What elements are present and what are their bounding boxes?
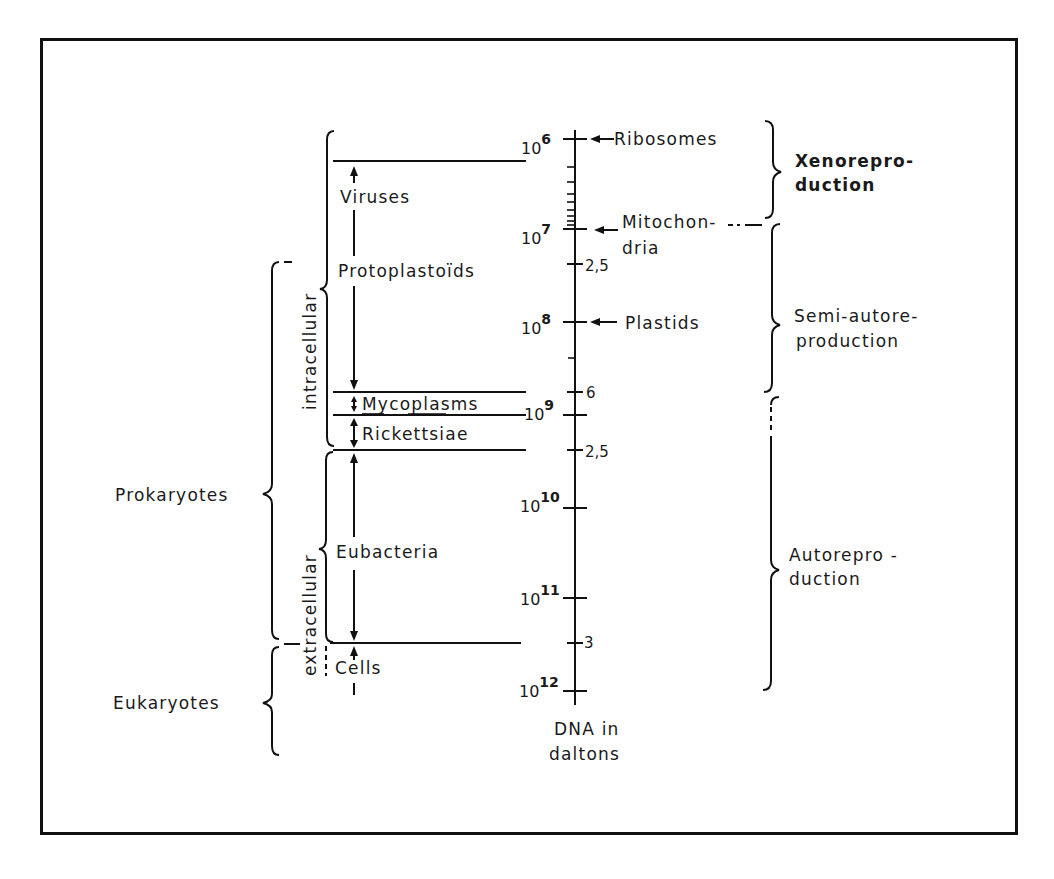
tick-label-1e10: 1010 [520,489,560,516]
tick-label-1e6: 106 [521,131,551,158]
label-intracellular: intracellular [300,293,320,410]
minor-label-3: 3 [584,634,594,652]
label-xenoreproduction: Xenorepro- [795,151,914,171]
organelle-markers: Ribosomes Mitochon- dria Plastids [590,129,718,333]
arrow-down-icon [350,631,358,641]
label-semi-autoreproduction-cont: production [796,331,899,351]
group-eubacteria: Eubacteria [336,542,439,562]
label-eukaryotes: Eukaryotes [113,693,220,713]
arrow-left-icon [590,318,600,326]
organism-groups: Viruses Protoplastoïds Mycoplasms Ricket… [335,187,479,678]
reproduction-braces: Xenorepro- duction Semi-autore- producti… [728,121,919,690]
label-autoreproduction-cont: duction [789,569,861,589]
domain-braces: Prokaryotes Eukaryotes [113,262,300,755]
group-rickettsiae: Rickettsiae [362,424,469,444]
habitat-braces: intracellular extracellular [300,131,334,676]
tick-label-1e11: 1011 [520,582,560,609]
tick-label-1e9: 109 [524,397,554,424]
group-mycoplasms: Mycoplasms [362,394,479,414]
arrow-down-icon [350,440,358,448]
arrow-left-icon [590,135,600,143]
dna-axis [563,130,587,705]
organelle-mitochondria: Mitochon- [622,212,717,232]
dna-scale-diagram: 106 107 108 109 1010 1011 1012 2,5 6 2,5… [0,0,1054,879]
minor-label-2-5: 2,5 [585,443,609,461]
organelle-ribosomes: Ribosomes [614,129,718,149]
axis-caption: DNA in [554,719,620,739]
arrow-down-icon [350,380,358,390]
group-protoplastoids: Protoplastoïds [338,261,475,281]
tick-label-1e8: 108 [521,311,551,338]
tick-label-1e7: 107 [521,221,551,248]
arrow-down-icon [351,406,357,412]
group-cells: Cells [335,658,382,678]
label-prokaryotes: Prokaryotes [115,485,229,505]
minor-label-2-5: 2,5 [585,257,609,275]
label-semi-autoreproduction: Semi-autore- [794,306,919,326]
label-xenoreproduction-cont: duction [795,175,875,195]
organelle-mitochondria-cont: dria [622,238,660,258]
label-extracellular: extracellular [300,554,320,676]
range-arrows [350,166,358,695]
minor-label-6: 6 [586,384,596,402]
arrow-up-icon [350,166,358,176]
tick-label-1e12: 1012 [519,674,559,701]
axis-minor-labels: 2,5 6 2,5 3 [584,257,609,652]
group-viruses: Viruses [340,187,410,207]
label-autoreproduction: Autorepro - [789,545,898,565]
arrow-left-icon [594,226,604,234]
axis-caption-unit: daltons [549,744,620,764]
organelle-plastids: Plastids [625,313,700,333]
